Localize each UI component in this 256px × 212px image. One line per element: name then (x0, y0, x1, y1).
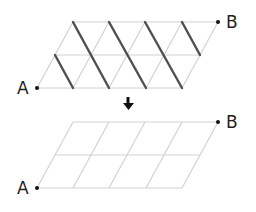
bottom-grid-lines (37, 122, 218, 188)
point-b-top (216, 20, 220, 24)
label-a-bottom: A (17, 178, 29, 198)
diagram-canvas: A B A B (0, 0, 256, 212)
label-b-top: B (226, 12, 238, 32)
point-a-bottom (35, 186, 39, 190)
bottom-figure: A B (17, 112, 238, 198)
point-a-top (35, 86, 39, 90)
point-b-bottom (216, 120, 220, 124)
label-b-bottom: B (226, 112, 238, 132)
down-arrow-icon (123, 97, 134, 110)
label-a-top: A (17, 78, 29, 98)
top-figure: A B (17, 12, 238, 98)
